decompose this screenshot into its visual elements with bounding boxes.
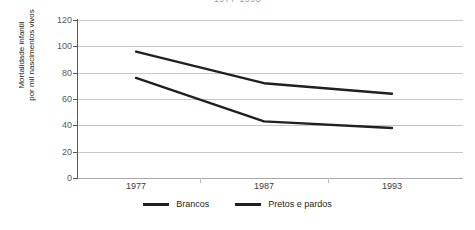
plot-area — [78, 20, 463, 178]
y-tickmark-120 — [73, 20, 78, 21]
y-tickmark-60 — [73, 99, 78, 100]
y-tick-label-20: 20 — [36, 147, 72, 156]
y-tick-label-80: 80 — [36, 68, 72, 77]
y-tick-label-120: 120 — [36, 16, 72, 25]
y-tickmark-0 — [73, 178, 78, 179]
y-axis-tick-labels: 120 100 80 60 40 20 0 — [36, 0, 72, 230]
legend-item-pretos-e-pardos: Pretos e pardos — [235, 199, 332, 210]
legend-item-brancos: Brancos — [143, 199, 209, 210]
gridline-80 — [78, 73, 463, 74]
y-tickmark-20 — [73, 152, 78, 153]
gridline-20 — [78, 152, 463, 153]
x-tick-label-1993: 1993 — [372, 180, 412, 192]
y-tick-label-0: 0 — [36, 174, 72, 183]
gridline-120 — [78, 20, 463, 21]
legend-label-brancos: Brancos — [176, 199, 209, 210]
infant-mortality-line-chart: 1977-1993 Mortalidade infantil por mil n… — [0, 0, 475, 230]
x-tickmark-1 — [200, 178, 201, 183]
y-tickmark-100 — [73, 46, 78, 47]
y-tick-label-100: 100 — [36, 42, 72, 51]
x-tickmark-2 — [328, 178, 329, 183]
y-axis-title-line-1: Mortalidade infantil — [17, 21, 28, 88]
legend-label-pretos-e-pardos: Pretos e pardos — [268, 199, 332, 210]
gridline-100 — [78, 46, 463, 47]
chart-legend: Brancos Pretos e pardos — [0, 199, 475, 210]
legend-line-icon-brancos — [143, 203, 169, 206]
y-tickmark-40 — [73, 125, 78, 126]
gridline-40 — [78, 125, 463, 126]
x-tick-label-1987: 1987 — [244, 180, 284, 192]
y-tickmark-80 — [73, 73, 78, 74]
gridline-0 — [78, 178, 463, 179]
y-tick-label-60: 60 — [36, 95, 72, 104]
x-tick-label-1977: 1977 — [116, 180, 156, 192]
y-tick-label-40: 40 — [36, 121, 72, 130]
legend-line-icon-pretos-e-pardos — [235, 203, 261, 206]
gridline-60 — [78, 99, 463, 100]
